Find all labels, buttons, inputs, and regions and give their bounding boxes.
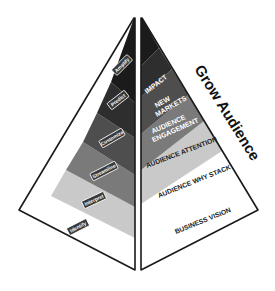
pyramid-diagram: Amplify Predict Customize Streamline Int… bbox=[0, 0, 275, 291]
